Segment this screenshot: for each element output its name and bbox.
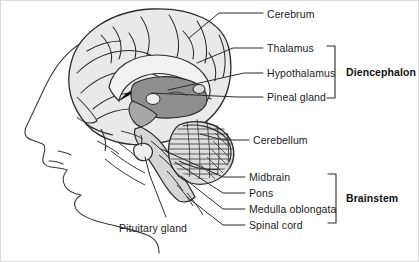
label-midbrain: Midbrain bbox=[249, 172, 290, 183]
label-cerebrum: Cerebrum bbox=[267, 9, 314, 20]
label-spinal-cord: Spinal cord bbox=[249, 220, 303, 231]
pineal-gland-structure bbox=[193, 85, 205, 94]
group-label-diencephalon: Diencephalon bbox=[346, 67, 416, 78]
brain-illustration bbox=[1, 1, 419, 262]
label-pineal-gland: Pineal gland bbox=[267, 92, 326, 103]
group-label-brainstem: Brainstem bbox=[346, 193, 398, 204]
label-pons: Pons bbox=[249, 188, 273, 199]
cerebellum-structure bbox=[168, 119, 236, 184]
label-medulla-oblongata: Medulla oblongata bbox=[249, 204, 337, 215]
label-thalamus: Thalamus bbox=[267, 43, 314, 54]
label-hypothalamus: Hypothalamus bbox=[267, 68, 335, 79]
label-pituitary-gland: Pituitary gland bbox=[119, 223, 187, 234]
brainstem-bracket bbox=[328, 174, 336, 223]
label-cerebellum: Cerebellum bbox=[253, 135, 308, 146]
brain-anatomy-figure: Cerebrum Thalamus Hypothalamus Pineal gl… bbox=[0, 0, 419, 262]
spinal-cord-leader bbox=[187, 197, 245, 225]
